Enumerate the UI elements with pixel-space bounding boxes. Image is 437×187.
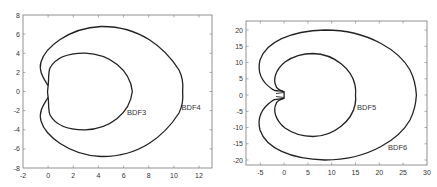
left-ytick: 6 <box>16 31 20 38</box>
right-xtick: 25 <box>399 169 407 176</box>
right-xtick: 20 <box>375 169 383 176</box>
right-ytick: 0 <box>239 92 243 99</box>
right-plot: -5 0 5 10 15 20 25 30 20 15 10 5 0 -5 -1… <box>233 21 431 176</box>
bdf6-curve <box>259 30 416 160</box>
left-plot: -2 0 2 4 6 8 10 12 8 6 4 2 0 -2 -4 -6 -8… <box>14 12 212 180</box>
left-xtick: 12 <box>195 172 203 179</box>
figure: -2 0 2 4 6 8 10 12 8 6 4 2 0 -2 -4 -6 -8… <box>0 0 437 187</box>
left-axes-box <box>23 15 212 168</box>
bdf4-curve <box>40 26 183 156</box>
left-ytick: 8 <box>16 12 20 19</box>
origin-slot <box>276 93 284 98</box>
left-xtick: 2 <box>71 172 75 179</box>
left-ytick: -8 <box>14 165 20 172</box>
right-xtick: -5 <box>257 169 263 176</box>
right-xtick: 5 <box>306 169 310 176</box>
left-xtick: 10 <box>170 172 178 179</box>
right-ytick: -20 <box>233 157 243 164</box>
right-ytick: 20 <box>235 27 243 34</box>
bdf3-label: BDF3 <box>127 108 146 117</box>
right-ytick: -10 <box>233 124 243 131</box>
right-ytick: 10 <box>235 59 243 66</box>
right-xtick: 15 <box>352 169 360 176</box>
left-ytick: -2 <box>14 107 20 114</box>
left-ytick: 0 <box>16 88 20 95</box>
left-xtick: 4 <box>96 172 100 179</box>
left-ytick: -6 <box>14 145 20 152</box>
left-ytick: 4 <box>16 50 20 57</box>
left-ytick: -4 <box>14 126 20 133</box>
right-xtick: 30 <box>423 169 431 176</box>
left-ytick: 2 <box>16 69 20 76</box>
left-xtick: 0 <box>46 172 50 179</box>
bdf5-label: BDF5 <box>357 103 376 112</box>
right-xtick: 0 <box>282 169 286 176</box>
right-ytick: 15 <box>235 43 243 50</box>
bdf5-curve <box>275 54 356 137</box>
left-xtick: 8 <box>147 172 151 179</box>
bdf6-label: BDF6 <box>388 143 407 152</box>
left-xtick: 6 <box>122 172 126 179</box>
right-xtick: 10 <box>328 169 336 176</box>
bdf4-label: BDF4 <box>182 103 201 112</box>
right-ytick: -15 <box>233 140 243 147</box>
right-ytick: 5 <box>239 75 243 82</box>
right-ytick: -5 <box>237 108 243 115</box>
left-xtick: -2 <box>20 172 26 179</box>
bdf3-curve <box>48 53 133 130</box>
